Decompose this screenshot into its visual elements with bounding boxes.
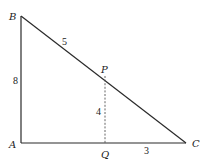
point-label-q: Q <box>101 149 109 160</box>
segment-bc <box>21 16 186 143</box>
length-label-pq: 4 <box>96 106 101 117</box>
vertex-label-a: A <box>8 139 16 150</box>
vertex-label-b: B <box>8 11 16 22</box>
length-label-bp: 5 <box>62 36 67 47</box>
point-label-p: P <box>100 64 108 75</box>
length-label-ab: 8 <box>13 75 18 86</box>
vertex-label-c: C <box>192 138 200 149</box>
triangle-diagram: B A C P Q 5 8 4 3 <box>0 0 220 162</box>
length-label-qc: 3 <box>144 145 149 156</box>
